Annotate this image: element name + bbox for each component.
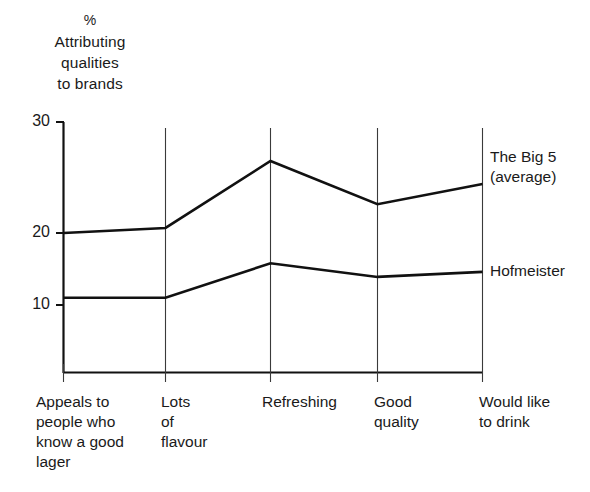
x-category-label-0: Appeals to people who know a good lager [36, 392, 154, 472]
x-category-label-4: Would like to drink [479, 392, 584, 432]
x-category-label-3-line-0: Good [374, 393, 412, 410]
series-label-the-big-5-line-1: (average) [490, 168, 556, 185]
x-category-label-4-line-1: to drink [479, 413, 530, 430]
x-category-label-0-line-2: know a good [36, 433, 124, 450]
series-label-the-big-5: The Big 5 (average) [490, 147, 556, 187]
series-label-the-big-5-line-0: The Big 5 [490, 148, 556, 165]
x-category-label-0-line-1: people who [36, 413, 115, 430]
y-tick-label-30: 30 [16, 112, 50, 130]
x-category-label-1-line-0: Lots [161, 393, 190, 410]
series-line-hofmeister [64, 263, 483, 298]
series-label-hofmeister-line-0: Hofmeister [490, 262, 565, 279]
x-category-label-3: Good quality [374, 392, 474, 432]
x-category-label-3-line-1: quality [374, 413, 419, 430]
x-category-label-0-line-0: Appeals to [36, 393, 109, 410]
x-category-label-2-line-0: Refreshing [262, 393, 337, 410]
x-category-label-1-line-1: of [161, 413, 174, 430]
x-category-label-1-line-2: flavour [161, 433, 208, 450]
x-category-label-0-line-3: lager [36, 453, 70, 470]
y-tick-label-10: 10 [16, 295, 50, 313]
x-category-label-4-line-0: Would like [479, 393, 550, 410]
x-category-label-1: Lots of flavour [161, 392, 261, 452]
chart-page: % Attributing qualities to brands 30 20 … [0, 0, 590, 492]
series-line-the-big-5 [64, 161, 483, 233]
y-tick-label-20: 20 [16, 223, 50, 241]
series-label-hofmeister: Hofmeister [490, 261, 565, 281]
x-category-label-2: Refreshing [262, 392, 372, 412]
